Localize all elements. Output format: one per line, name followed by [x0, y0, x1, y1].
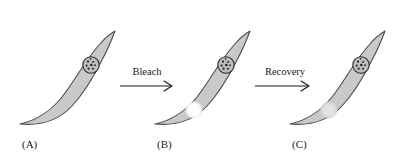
bleached-spot-b — [185, 101, 204, 120]
panel-b: (B) — [155, 31, 250, 151]
nucleus-c — [353, 57, 369, 73]
nucleus-a — [83, 57, 99, 73]
panel-label-c: (C) — [292, 138, 307, 151]
panel-label-a: (A) — [22, 138, 38, 151]
panel-label-b: (B) — [157, 138, 172, 151]
arrow-bleach: Bleach — [120, 66, 172, 91]
nucleus-b — [218, 57, 234, 73]
recovering-spot-c — [320, 101, 339, 120]
panel-a: (A) — [20, 31, 115, 151]
arrow-recovery: Recovery — [255, 66, 309, 91]
panel-c: (C) — [290, 31, 385, 151]
arrow-bleach-label: Bleach — [132, 66, 162, 77]
frap-diagram: (A) Bleach — [0, 0, 409, 167]
arrow-recovery-label: Recovery — [265, 66, 306, 77]
cell-body-a — [20, 31, 115, 124]
